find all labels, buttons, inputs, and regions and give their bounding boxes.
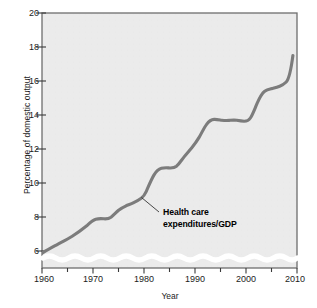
x-tick-label: 1970 bbox=[75, 274, 111, 284]
x-tick-label: 2010 bbox=[277, 274, 313, 284]
annotation-line-1: Health care bbox=[163, 207, 237, 219]
y-axis-title: Percentage of domestic output bbox=[22, 45, 32, 225]
line-chart-plot bbox=[0, 0, 317, 308]
annotation-line-2: expenditures/GDP bbox=[163, 219, 237, 231]
x-axis-title: Year bbox=[42, 291, 298, 301]
x-axis-ticks bbox=[42, 268, 297, 274]
y-tick-label: 6 bbox=[17, 247, 39, 256]
x-tick-label: 1960 bbox=[26, 274, 62, 284]
x-tick-label: 1990 bbox=[177, 274, 213, 284]
y-tick-label: 20 bbox=[17, 9, 39, 18]
x-tick-label: 2000 bbox=[228, 274, 264, 284]
y-axis-break-band bbox=[43, 256, 297, 260]
series-annotation: Health care expenditures/GDP bbox=[163, 207, 237, 230]
x-tick-label: 1980 bbox=[126, 274, 162, 284]
chart-figure: 20 18 16 14 12 10 8 6 1960 1970 1980 199… bbox=[0, 0, 317, 308]
